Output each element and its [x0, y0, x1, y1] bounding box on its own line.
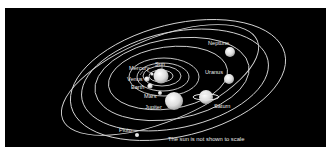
solar-system-diagram: Sun Mercury Venus Earth Mars Jupiter Sat… [0, 0, 331, 151]
planet-mars [158, 91, 162, 95]
label-mercury: Mercury [129, 65, 149, 71]
planet-neptune [225, 47, 235, 57]
planet-jupiter [165, 92, 183, 110]
label-earth: Earth [131, 84, 144, 90]
sun [154, 69, 169, 84]
label-venus: Venus [127, 76, 143, 82]
caption: The sun is not shown to scale [168, 136, 244, 142]
label-saturn: Saturn [214, 103, 230, 109]
label-pluto: Pluto [119, 127, 132, 133]
label-sun: Sun [155, 61, 165, 67]
planet-earth [147, 83, 152, 88]
planet-venus [144, 76, 149, 81]
planet-pluto [135, 133, 139, 137]
label-neptune: Neptune [208, 40, 229, 46]
label-jupiter: Jupiter [145, 104, 162, 110]
label-uranus: Uranus [205, 69, 223, 75]
planet-uranus [224, 74, 234, 84]
label-mars: Mars [144, 93, 157, 99]
